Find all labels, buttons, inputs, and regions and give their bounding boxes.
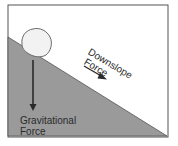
gravitational-label-line2: Force xyxy=(20,126,46,137)
boulder-icon xyxy=(22,28,52,56)
slope-force-diagram: Downslope Force Gravitational Force xyxy=(0,0,178,146)
gravitational-label-line1: Gravitational xyxy=(20,115,76,126)
